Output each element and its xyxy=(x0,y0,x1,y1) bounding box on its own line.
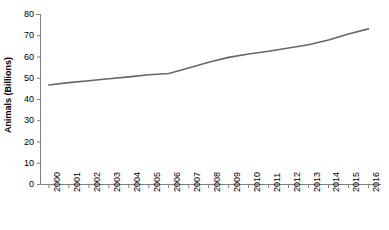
plot-area xyxy=(0,0,389,230)
data-series-line xyxy=(49,29,369,85)
x-axis-ticks xyxy=(49,185,369,189)
y-axis-ticks xyxy=(37,15,41,185)
line-chart: Animals (Billions) 01020304050607080 200… xyxy=(0,0,389,230)
